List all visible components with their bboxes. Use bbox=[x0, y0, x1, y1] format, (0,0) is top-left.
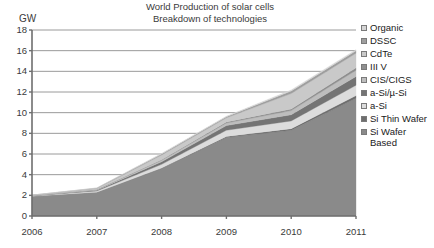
legend-swatch-icon bbox=[361, 116, 367, 122]
y-tick-label: 4 bbox=[1, 170, 27, 180]
legend-swatch-icon bbox=[361, 77, 367, 83]
legend-item[interactable]: a-Si bbox=[361, 100, 434, 111]
legend-item-label: III V bbox=[370, 61, 387, 72]
legend-item-label: Organic bbox=[370, 22, 403, 33]
y-tick-label: 14 bbox=[1, 66, 27, 76]
x-tick-label: 2009 bbox=[206, 226, 246, 237]
legend-item[interactable]: III V bbox=[361, 61, 434, 72]
legend-swatch-icon bbox=[361, 64, 367, 70]
y-tick-label: 10 bbox=[1, 108, 27, 118]
legend-item-label: DSSC bbox=[370, 35, 396, 46]
legend-item[interactable]: DSSC bbox=[361, 35, 434, 46]
legend-item[interactable]: Si Thin Wafer bbox=[361, 113, 434, 124]
y-tick-label: 12 bbox=[1, 87, 27, 97]
legend-swatch-icon bbox=[361, 25, 367, 31]
x-tick-label: 2007 bbox=[77, 226, 117, 237]
x-tick-label: 2008 bbox=[142, 226, 182, 237]
y-tick-label: 18 bbox=[1, 25, 27, 35]
chart-legend: OrganicDSSCCdTeIII VCIS/CIGSa-Si/µ-Sia-S… bbox=[361, 22, 434, 150]
legend-item[interactable]: a-Si/µ-Si bbox=[361, 87, 434, 98]
legend-item-label: Si Wafer Based bbox=[370, 126, 434, 148]
chart-container: World Production of solar cells Breakdow… bbox=[0, 0, 434, 248]
y-tick-label: 16 bbox=[1, 46, 27, 56]
legend-item-label: CdTe bbox=[370, 48, 392, 59]
y-tick-label: 2 bbox=[1, 190, 27, 200]
legend-item[interactable]: Si Wafer Based bbox=[361, 126, 434, 148]
legend-swatch-icon bbox=[361, 51, 367, 57]
y-tick-label: 8 bbox=[1, 128, 27, 138]
legend-item-label: Si Thin Wafer bbox=[370, 113, 427, 124]
legend-item-label: CIS/CIGS bbox=[370, 74, 412, 85]
legend-swatch-icon bbox=[361, 38, 367, 44]
legend-item[interactable]: CdTe bbox=[361, 48, 434, 59]
legend-swatch-icon bbox=[361, 90, 367, 96]
y-tick-label: 6 bbox=[1, 149, 27, 159]
legend-item-label: a-Si bbox=[370, 100, 387, 111]
legend-swatch-icon bbox=[361, 103, 367, 109]
x-tick-label: 2006 bbox=[12, 226, 52, 237]
y-tick-label: 0 bbox=[1, 211, 27, 221]
x-tick-label: 2010 bbox=[271, 226, 311, 237]
stacked-areas bbox=[32, 50, 356, 216]
legend-item[interactable]: CIS/CIGS bbox=[361, 74, 434, 85]
x-tick-label: 2011 bbox=[336, 226, 376, 237]
legend-swatch-icon bbox=[361, 129, 367, 135]
legend-item[interactable]: Organic bbox=[361, 22, 434, 33]
legend-item-label: a-Si/µ-Si bbox=[370, 87, 407, 98]
